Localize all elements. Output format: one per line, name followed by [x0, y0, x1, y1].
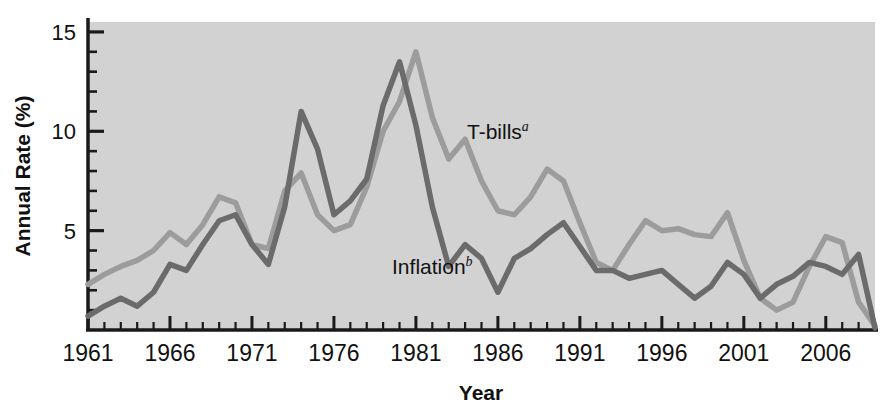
x-axis-title: Year — [459, 381, 503, 404]
chart-figure: 51015 1961196619711976198119861991199620… — [0, 0, 893, 420]
x-tick-label: 1976 — [308, 340, 359, 366]
series-label-superscript: b — [466, 254, 473, 269]
series-label-t-bills: T-billsa — [467, 119, 529, 143]
x-tick-label: 1971 — [226, 340, 277, 366]
y-axis-title: Annual Rate (%) — [11, 95, 34, 256]
x-tick-label: 1996 — [636, 340, 687, 366]
series-label-text: Inflation — [392, 255, 466, 278]
x-tick-label: 1981 — [390, 340, 441, 366]
x-tick-label: 1991 — [554, 340, 605, 366]
series-label-inflation: Inflationb — [392, 254, 473, 278]
x-tick-label: 2001 — [718, 340, 769, 366]
series-label-text: T-bills — [467, 120, 522, 143]
x-tick-label: 1961 — [62, 340, 113, 366]
y-tick-label: 10 — [52, 119, 76, 144]
y-tick-label: 15 — [52, 20, 76, 45]
x-tick-label: 1966 — [144, 340, 195, 366]
line-chart: 51015 1961196619711976198119861991199620… — [0, 0, 893, 420]
y-tick-label: 5 — [64, 219, 76, 244]
series-label-superscript: a — [522, 119, 529, 134]
x-tick-label: 2006 — [800, 340, 851, 366]
x-tick-label: 1986 — [472, 340, 523, 366]
